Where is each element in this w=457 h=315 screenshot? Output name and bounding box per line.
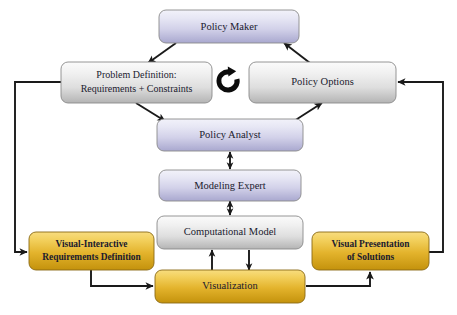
- edge-visualization-to-visual-presentation: [306, 272, 370, 286]
- node-visual-interactive-requirements-label-line1: Visual-Interactive: [55, 239, 127, 249]
- edge-problem-definition-to-policy-analyst: [136, 103, 165, 121]
- node-modeling-expert-label: Modeling Expert: [194, 180, 266, 191]
- node-computational-model-label: Computational Model: [184, 226, 277, 237]
- node-policy-analyst[interactable]: Policy Analyst: [157, 119, 303, 151]
- cycle-refresh-icon: [216, 67, 239, 93]
- node-visual-presentation[interactable]: Visual Presentation of Solutions: [312, 232, 429, 270]
- edge-policy-maker-to-problem-definition: [148, 43, 176, 63]
- node-visualization[interactable]: Visualization: [155, 270, 305, 303]
- edge-policy-options-to-policy-maker: [284, 43, 310, 63]
- node-computational-model[interactable]: Computational Model: [157, 216, 303, 249]
- edge-visual-presentation-right-loop: [398, 82, 443, 252]
- node-policy-options-label: Policy Options: [291, 76, 354, 87]
- node-policy-maker-label: Policy Maker: [201, 21, 258, 32]
- node-visual-interactive-requirements-label-line2: Requirements Definition: [42, 252, 141, 262]
- edge-policy-analyst-to-policy-options: [294, 103, 322, 121]
- policy-modeling-flow-diagram: Policy Maker Problem Definition: Require…: [0, 0, 457, 315]
- node-visual-interactive-requirements[interactable]: Visual-Interactive Requirements Definiti…: [29, 232, 154, 270]
- node-problem-definition-label-line1: Problem Definition:: [96, 69, 176, 80]
- node-policy-analyst-label: Policy Analyst: [199, 129, 261, 140]
- node-visualization-label: Visualization: [202, 280, 258, 291]
- node-problem-definition-label-line2: Requirements + Constraints: [81, 83, 193, 94]
- node-policy-maker[interactable]: Policy Maker: [159, 10, 299, 43]
- node-visual-presentation-label-line2: of Solutions: [347, 252, 395, 262]
- node-visual-presentation-label-line1: Visual Presentation: [332, 239, 411, 249]
- node-modeling-expert[interactable]: Modeling Expert: [159, 170, 301, 201]
- node-policy-options[interactable]: Policy Options: [249, 62, 396, 103]
- edge-requirements-to-visualization: [91, 270, 153, 286]
- node-problem-definition[interactable]: Problem Definition: Requirements + Const…: [61, 62, 212, 103]
- edge-problem-definition-left-loop: [15, 82, 61, 252]
- diagram-canvas: Policy Maker Problem Definition: Require…: [0, 0, 457, 315]
